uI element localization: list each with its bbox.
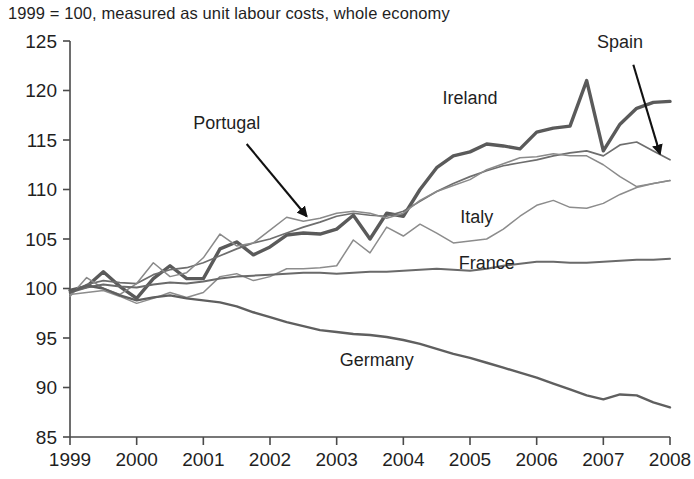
x-axis-label: 2005 <box>449 449 491 470</box>
y-axis-ticks: 859095100105110115120125 <box>25 31 70 448</box>
series-label-italy: Italy <box>460 207 493 227</box>
x-axis-label: 2003 <box>316 449 358 470</box>
y-axis-label: 85 <box>36 427 57 448</box>
x-axis-label: 2006 <box>516 449 558 470</box>
series-label-france: France <box>459 253 515 273</box>
series-line-italy <box>70 181 670 304</box>
y-axis-label: 100 <box>25 278 57 299</box>
series-label-ireland: Ireland <box>442 88 497 108</box>
annotation-arrow-portugal <box>247 144 307 216</box>
series-label-germany: Germany <box>340 350 414 370</box>
x-axis-label: 1999 <box>49 449 91 470</box>
y-axis-label: 105 <box>25 229 57 250</box>
series-label-portugal: Portugal <box>193 113 260 133</box>
series-line-france <box>70 259 670 293</box>
y-axis-label: 125 <box>25 31 57 52</box>
x-axis-label: 2001 <box>182 449 224 470</box>
chart-container: 1999 = 100, measured as unit labour cost… <box>0 0 694 479</box>
line-chart-svg: 859095100105110115120125 199920002001200… <box>0 0 694 479</box>
y-axis-label: 115 <box>27 130 57 151</box>
x-axis-label: 2002 <box>249 449 291 470</box>
x-axis-label: 2008 <box>649 449 691 470</box>
x-axis-label: 2007 <box>582 449 624 470</box>
x-axis-ticks: 1999200020012002200320042005200620072008 <box>49 437 691 470</box>
y-axis-label: 120 <box>25 80 57 101</box>
series-label-spain: Spain <box>597 32 643 52</box>
y-axis-label: 95 <box>36 328 57 349</box>
x-axis-label: 2004 <box>382 449 425 470</box>
y-axis-label: 90 <box>36 377 57 398</box>
x-axis-label: 2000 <box>116 449 158 470</box>
series-labels-group: IrelandSpainPortugalItalyFranceGermany <box>193 32 643 370</box>
y-axis-label: 110 <box>27 179 57 200</box>
series-line-germany <box>70 286 670 408</box>
series-line-ireland <box>70 81 670 299</box>
